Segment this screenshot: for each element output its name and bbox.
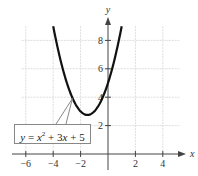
x-tick-label: 2 [133,158,138,169]
x-tick-label: −4 [48,158,59,169]
eq-tail: + 5 [67,131,84,143]
leader-line [66,99,72,124]
x-axis-label: x [189,148,195,159]
parabola-curve [53,26,122,115]
y-tick-label: 2 [98,120,103,131]
x-tick-label: 4 [160,158,165,169]
equation-label: y = x2 + 3x + 5 [14,124,91,144]
eq-equals: = [25,131,37,143]
y-tick-label: 6 [98,63,103,74]
y-axis-arrow-icon [105,17,111,25]
x-tick-label: −2 [75,158,86,169]
y-axis-label: y [105,4,111,15]
y-tick-label: 8 [98,35,103,46]
eq-middle: + 3 [45,131,62,143]
x-tick-label: −6 [20,158,31,169]
leader-line [56,99,72,124]
chart-canvas: −6−4−2242468xy [0,0,198,176]
x-axis-arrow-icon [178,151,186,157]
